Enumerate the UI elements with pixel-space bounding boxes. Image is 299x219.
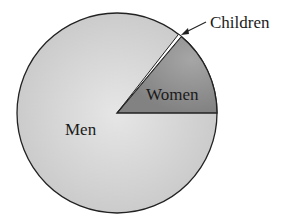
label-women: Women <box>146 86 198 103</box>
pie-chart <box>0 0 299 219</box>
label-men: Men <box>65 121 96 138</box>
label-children: Children <box>210 14 270 31</box>
arrow-head-icon <box>181 28 189 35</box>
